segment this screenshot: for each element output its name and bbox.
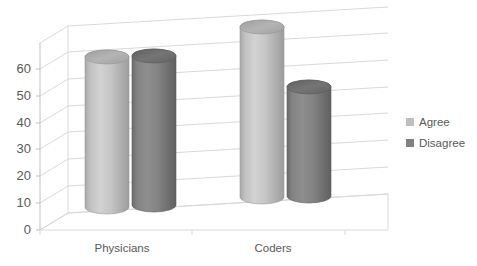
bar-cap: [85, 50, 129, 64]
bar-body: [85, 50, 129, 214]
chart-container: 0 10 20 30 40 50 60: [0, 0, 477, 266]
y-tick-label-60: 60: [17, 61, 31, 76]
bar-chart-3d: 0 10 20 30 40 50 60: [0, 0, 477, 266]
bar-coders-disagree[interactable]: [287, 80, 331, 203]
legend-swatch-agree: [406, 118, 414, 126]
x-axis-labels: Physicians Coders: [95, 242, 292, 254]
x-axis-ticks: [40, 230, 345, 235]
legend-item-disagree[interactable]: Disagree: [406, 137, 465, 149]
legend-swatch-disagree: [406, 139, 414, 147]
bar-physicians-agree[interactable]: [85, 50, 129, 214]
legend-label-agree: Agree: [419, 116, 450, 128]
bar-cap: [132, 49, 176, 63]
legend-label-disagree: Disagree: [419, 137, 465, 149]
bar-body: [240, 20, 284, 204]
y-tick-label-50: 50: [17, 88, 31, 103]
bar-coders-agree[interactable]: [240, 20, 284, 204]
bar-cap: [240, 20, 284, 34]
y-tick-label-20: 20: [17, 168, 31, 183]
bar-cap: [287, 80, 331, 94]
y-axis-labels: 0 10 20 30 40 50 60: [17, 61, 31, 237]
bar-physicians-disagree[interactable]: [132, 49, 176, 212]
y-tick-label-40: 40: [17, 115, 31, 130]
y-tick-label-10: 10: [17, 195, 31, 210]
y-tick-label-0: 0: [24, 222, 31, 237]
bar-body: [287, 80, 331, 203]
bar-body: [132, 49, 176, 212]
category-label-physicians: Physicians: [95, 242, 150, 254]
legend-item-agree[interactable]: Agree: [406, 116, 450, 128]
category-label-coders: Coders: [254, 242, 291, 254]
axis-depth-connectors: [40, 26, 68, 230]
legend: Agree Disagree: [406, 116, 465, 149]
y-tick-label-30: 30: [17, 141, 31, 156]
y-axis-ticks: [36, 69, 40, 230]
